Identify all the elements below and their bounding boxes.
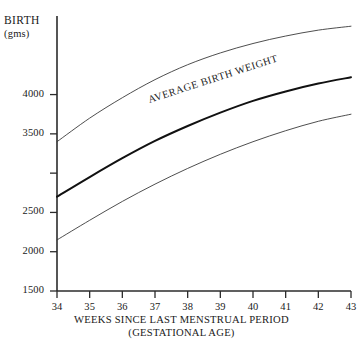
y-axis-tick-label: 1500 (10, 284, 44, 295)
curve-series-1 (57, 77, 351, 196)
x-axis-tick-label: 36 (111, 301, 133, 312)
x-axis-tick-label: 37 (144, 301, 166, 312)
y-axis-ticks (50, 95, 57, 291)
curve-series-2 (57, 114, 351, 240)
x-axis-tick-label: 40 (242, 301, 264, 312)
x-axis-tick-label: 43 (340, 301, 362, 312)
x-axis-tick-label: 41 (275, 301, 297, 312)
plot-area (0, 0, 363, 340)
y-axis-tick-label: 2500 (10, 205, 44, 216)
x-axis-caption-line1: WEEKS SINCE LAST MENSTRUAL PERIOD (0, 314, 363, 325)
x-axis-tick-label: 38 (177, 301, 199, 312)
axis-lines (57, 16, 351, 291)
x-axis-tick-label: 34 (46, 301, 68, 312)
x-axis-caption-line2: (GESTATIONAL AGE) (0, 327, 363, 338)
birth-weight-chart: BIRTH (gms) 15002000250035004000 3435363… (0, 0, 363, 340)
y-axis-tick-label: 3500 (10, 127, 44, 138)
y-axis-tick-label: 2000 (10, 245, 44, 256)
x-axis-tick-label: 42 (307, 301, 329, 312)
x-axis-tick-label: 39 (209, 301, 231, 312)
curve-group (57, 26, 351, 240)
y-axis-tick-label: 4000 (10, 88, 44, 99)
x-axis-tick-label: 35 (79, 301, 101, 312)
x-axis-ticks (57, 291, 351, 298)
